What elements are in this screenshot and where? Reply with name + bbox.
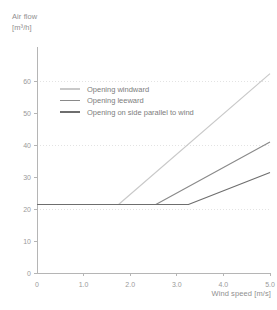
x-tick-label-4.0: 4.0 xyxy=(219,281,229,288)
x-tick-label-1.0: 1.0 xyxy=(79,281,89,288)
legend-label-2: Opening on side parallel to wind xyxy=(87,108,194,117)
series-line-2 xyxy=(37,173,270,205)
y-tick-label-20: 20 xyxy=(23,206,31,213)
y-tick-label-50: 50 xyxy=(23,110,31,117)
y-tick-label-0: 0 xyxy=(27,270,31,277)
legend-label-0: Opening windward xyxy=(87,85,149,94)
y-tick-label-60: 60 xyxy=(23,78,31,85)
x-tick-label-3.0: 3.0 xyxy=(172,281,182,288)
y-tick-label-30: 30 xyxy=(23,174,31,181)
x-tick-label-2.0: 2.0 xyxy=(125,281,135,288)
chart-legend: Opening windwardOpening leewardOpening o… xyxy=(60,85,194,117)
x-tick-label-5.0: 5.0 xyxy=(265,281,275,288)
data-series xyxy=(37,74,270,205)
y-tick-label-10: 10 xyxy=(23,238,31,245)
series-line-1 xyxy=(37,142,270,204)
air-flow-chart: Air flow [m³/h] Wind speed [m/s] 6050403… xyxy=(0,0,277,310)
y-axis-ticks: 6050403020100 xyxy=(23,78,37,277)
y-tick-label-40: 40 xyxy=(23,142,31,149)
legend-label-1: Opening leeward xyxy=(87,96,144,105)
plot-area: 6050403020100 01.02.03.04.05.0 Opening w… xyxy=(0,0,277,310)
series-line-0 xyxy=(37,74,270,205)
x-tick-label-0: 0 xyxy=(35,281,39,288)
x-axis-ticks: 01.02.03.04.05.0 xyxy=(35,273,275,288)
